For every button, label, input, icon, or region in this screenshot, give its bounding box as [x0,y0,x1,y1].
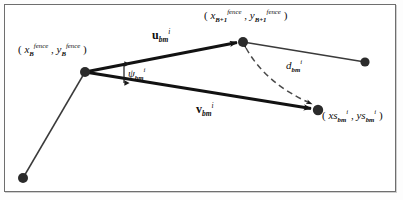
node-fence-vertex-b-plus-1 [238,37,248,47]
psi-subscript: bm [135,74,144,81]
x-subscript: bm [338,116,347,123]
x-subscript: B+1 [215,16,227,23]
y-superscript: i [374,108,376,115]
paren-close: ) [379,109,383,121]
node-fence-vertex-b [80,67,90,77]
label-u-vector: ubmi [152,29,170,41]
y-subscript: B+1 [255,16,267,23]
figure-root: ( xBfence , yBfence ) ( xB+1fence , yB+1… [0,0,403,200]
paren-close: ) [83,43,87,55]
fence-edge-b1-to-far [243,42,365,62]
comma: , [351,109,354,121]
label-v-vector: vbmi [196,103,214,115]
paren-open: ( [18,43,22,55]
label-fence-vertex-b: ( xBfence , yBfence ) [18,44,87,55]
label-fence-vertex-b-plus-1: ( xB+1fence , yB+1fence ) [204,10,287,21]
y-subscript: B [61,50,66,57]
x-subscript: B [29,50,34,57]
diagram-canvas [0,0,403,200]
x-superscript: fence [34,42,48,49]
u-subscript: bm [159,35,169,44]
v-superscript: i [212,101,214,110]
u-symbol: u [152,28,159,42]
paren-open: ( [204,9,208,21]
y-superscript: fence [66,42,80,49]
label-psi-angle: ψbmi [128,68,145,79]
fence-edge-b-to-lower [23,72,85,178]
u-vector-arrow [85,43,237,73]
label-target-point: ( xsbmi , ysbmi ) [322,110,383,121]
comma: , [244,9,247,21]
y-superscript: fence [267,8,281,15]
comma: , [51,43,54,55]
y-subscript: bm [366,116,375,123]
psi-superscript: i [144,66,146,73]
label-d-distance: dbmi [286,60,302,71]
x-superscript: fence [227,8,241,15]
u-superscript: i [168,27,170,36]
x-superscript: i [346,108,348,115]
v-subscript: bm [202,109,212,118]
node-fence-vertex-far [360,57,369,66]
psi-symbol: ψ [128,67,135,79]
d-subscript: bm [292,66,301,73]
paren-close: ) [284,9,288,21]
node-fence-vertex-lower [18,173,28,183]
paren-open: ( [322,109,326,121]
distance-arc-dashed [246,48,312,104]
d-superscript: i [300,58,302,65]
